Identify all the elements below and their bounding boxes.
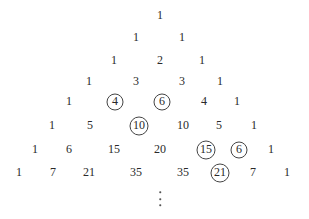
triangle-entry: 1 [111, 54, 117, 66]
circled-triangle-entry: 15 [200, 143, 212, 155]
triangle-entry: 15 [108, 143, 120, 155]
ellipsis-dot [159, 204, 161, 206]
ellipsis-dot [159, 191, 161, 193]
triangle-entry: 2 [157, 54, 163, 66]
triangle-entry: 35 [177, 166, 189, 178]
circled-triangle-entry: 10 [133, 119, 145, 131]
triangle-entry: 1 [251, 119, 257, 131]
triangle-entry: 5 [216, 119, 222, 131]
triangle-entry: 3 [179, 75, 185, 87]
triangle-entry: 35 [130, 166, 142, 178]
triangle-entry: 1 [217, 75, 223, 87]
triangle-entry: 7 [50, 166, 56, 178]
triangle-entry: 6 [66, 143, 72, 155]
triangle-entry: 20 [154, 143, 166, 155]
triangle-entry: 1 [157, 9, 163, 21]
pascals-triangle-diagram: 1111211331146411510105116152015611721353… [0, 0, 309, 219]
circled-triangle-entry: 6 [159, 95, 165, 107]
triangle-entry: 1 [268, 143, 274, 155]
triangle-entry: 1 [199, 54, 205, 66]
triangle-entry: 4 [201, 95, 207, 107]
triangle-entry: 5 [87, 119, 93, 131]
triangle-entry: 1 [86, 75, 92, 87]
triangle-entry: 1 [66, 95, 72, 107]
triangle-entry: 1 [234, 95, 240, 107]
triangle-entry: 21 [83, 166, 95, 178]
triangle-entry: 1 [49, 119, 55, 131]
circled-triangle-entry: 4 [112, 95, 118, 107]
triangle-entry: 1 [16, 166, 22, 178]
triangle-entry: 1 [284, 166, 290, 178]
triangle-entry: 1 [133, 31, 139, 43]
triangle-entry: 1 [179, 31, 185, 43]
triangle-entry: 3 [133, 75, 139, 87]
triangle-entry: 7 [250, 166, 256, 178]
triangle-entry: 10 [177, 119, 189, 131]
circled-triangle-entry: 6 [236, 143, 242, 155]
triangle-entry: 1 [32, 143, 38, 155]
ellipsis-dot [159, 198, 161, 200]
circled-triangle-entry: 21 [214, 166, 226, 178]
